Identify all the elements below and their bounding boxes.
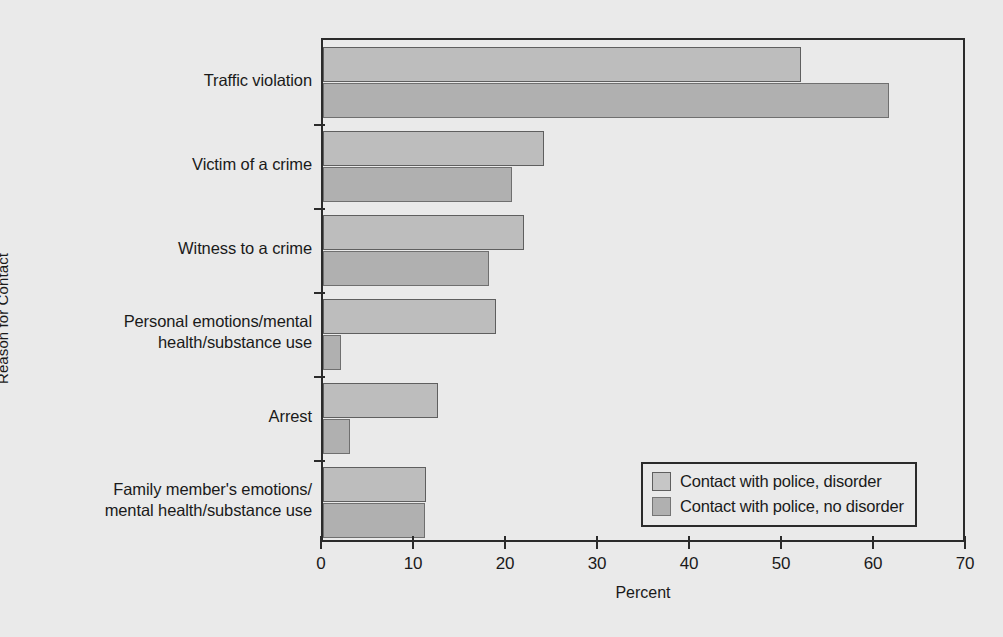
x-axis-tick [596, 536, 598, 549]
bar-2-0 [323, 215, 524, 250]
bar-0-0 [323, 47, 801, 82]
category-label-line: Arrest [60, 406, 312, 427]
x-axis-tick [964, 536, 966, 549]
category-label-line: Victim of a crime [60, 154, 312, 175]
x-axis-tick [780, 536, 782, 549]
legend-swatch-icon [652, 497, 671, 516]
x-axis-tick-label: 10 [404, 554, 423, 574]
category-label-1: Victim of a crime [60, 154, 312, 175]
x-axis-tick [412, 536, 414, 549]
y-axis-title-text: Reason for Contact [0, 253, 11, 384]
category-label-line: Personal emotions/mental [60, 311, 312, 332]
bar-2-1 [323, 251, 489, 286]
bar-3-0 [323, 299, 496, 334]
legend-label: Contact with police, disorder [680, 472, 881, 491]
category-label-4: Arrest [60, 406, 312, 427]
bar-4-0 [323, 383, 438, 418]
category-label-3: Personal emotions/mentalhealth/substance… [60, 311, 312, 353]
bar-0-1 [323, 83, 889, 118]
x-axis-tick-label: 20 [496, 554, 515, 574]
category-label-0: Traffic violation [60, 70, 312, 91]
y-axis-tick [314, 124, 325, 126]
x-axis-tick-label: 70 [956, 554, 975, 574]
bar-5-0 [323, 467, 426, 502]
bar-5-1 [323, 503, 425, 538]
y-axis-tick [314, 460, 325, 462]
bar-4-1 [323, 419, 350, 454]
category-label-line: Family member's emotions/ [60, 479, 312, 500]
bar-3-1 [323, 335, 341, 370]
bar-chart-figure: Reason for Contact Traffic violationVict… [0, 0, 1003, 637]
category-label-5: Family member's emotions/mental health/s… [60, 479, 312, 521]
x-axis-tick [320, 536, 322, 549]
category-label-2: Witness to a crime [60, 238, 312, 259]
x-axis-tick-label: 40 [680, 554, 699, 574]
legend-item-1: Contact with police, no disorder [652, 494, 904, 519]
legend-swatch-icon [652, 472, 671, 491]
bar-1-0 [323, 131, 544, 166]
x-axis-tick [504, 536, 506, 549]
chart-legend: Contact with police, disorderContact wit… [641, 462, 917, 527]
y-axis-tick [314, 208, 325, 210]
category-label-line: Traffic violation [60, 70, 312, 91]
x-axis: 010203040506070 [321, 542, 965, 543]
x-axis-tick [872, 536, 874, 549]
x-axis-tick-label: 60 [864, 554, 883, 574]
x-axis-tick-label: 0 [316, 554, 325, 574]
category-axis-labels: Traffic violationVictim of a crimeWitnes… [60, 38, 312, 542]
legend-item-0: Contact with police, disorder [652, 469, 904, 494]
x-axis-title: Percent [321, 584, 965, 602]
category-label-line: Witness to a crime [60, 238, 312, 259]
x-axis-tick [688, 536, 690, 549]
x-axis-tick-label: 30 [588, 554, 607, 574]
y-axis-tick [314, 376, 325, 378]
category-label-line: mental health/substance use [60, 500, 312, 521]
legend-label: Contact with police, no disorder [680, 497, 904, 516]
y-axis-tick [314, 292, 325, 294]
x-axis-tick-label: 50 [772, 554, 791, 574]
bar-1-1 [323, 167, 512, 202]
category-label-line: health/substance use [60, 332, 312, 353]
